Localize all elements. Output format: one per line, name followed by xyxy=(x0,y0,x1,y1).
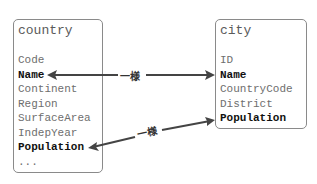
field-region: Region xyxy=(18,97,102,112)
country-table-title: country xyxy=(18,23,102,39)
city-table: city ID Name CountryCode District Popula… xyxy=(215,19,307,129)
field-countrycode: CountryCode xyxy=(220,82,306,97)
field-district: District xyxy=(220,97,306,112)
field-indepyear: IndepYear xyxy=(18,126,102,141)
name-relation-label: 一様 xyxy=(119,68,141,83)
field-id: ID xyxy=(220,53,306,68)
field-code: Code xyxy=(18,53,102,68)
field-continent: Continent xyxy=(18,82,102,97)
field-name: Name xyxy=(220,68,306,83)
field-ellipsis: ... xyxy=(18,155,102,170)
field-name: Name xyxy=(18,68,102,83)
field-population: Population xyxy=(18,140,102,155)
population-relation-label: 一様 xyxy=(135,122,160,141)
field-surfacearea: SurfaceArea xyxy=(18,111,102,126)
country-table: country Code Name Continent Region Surfa… xyxy=(13,19,103,173)
city-table-title: city xyxy=(220,23,306,39)
field-population: Population xyxy=(220,111,306,126)
